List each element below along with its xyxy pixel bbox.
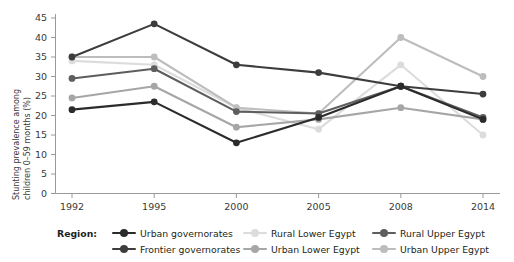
x-axis-tick-label: 2008 bbox=[381, 201, 421, 212]
legend-item[interactable]: Urban Lower Egypt bbox=[243, 242, 360, 256]
legend-label: Frontier governorates bbox=[140, 244, 240, 255]
x-axis-tick-label: 1995 bbox=[134, 201, 174, 212]
legend-marker-icon bbox=[243, 244, 267, 254]
y-axis-tick-label: 40 bbox=[25, 32, 47, 43]
legend-title: Region: bbox=[57, 228, 97, 239]
data-point bbox=[233, 61, 240, 68]
data-point bbox=[480, 132, 487, 139]
legend-item[interactable]: Rural Upper Egypt bbox=[372, 226, 485, 240]
legend-label: Urban Lower Egypt bbox=[271, 244, 360, 255]
data-point bbox=[397, 34, 404, 41]
legend-marker-icon bbox=[112, 228, 136, 238]
chart-legend: Region: Urban governoratesFrontier gover… bbox=[0, 224, 514, 262]
series-frontier-governorates bbox=[69, 20, 487, 97]
y-axis-tick-label: 0 bbox=[25, 188, 47, 199]
series-line bbox=[72, 38, 483, 114]
series-layer bbox=[69, 20, 487, 146]
y-axis-tick-label: 20 bbox=[25, 110, 47, 121]
data-point bbox=[69, 54, 76, 61]
x-axis-tick-label: 2000 bbox=[216, 201, 256, 212]
stunting-prevalence-line-chart: Stunting prevalence among children 0–59 … bbox=[0, 0, 514, 262]
series-rural-upper-egypt bbox=[69, 65, 487, 121]
data-point bbox=[69, 95, 76, 102]
data-point bbox=[233, 108, 240, 115]
legend-label: Rural Upper Egypt bbox=[400, 228, 485, 239]
y-axis-title-line-1: Stunting prevalence among bbox=[12, 89, 22, 200]
y-axis-tick-label: 10 bbox=[25, 149, 47, 160]
series-urban-lower-egypt bbox=[69, 83, 487, 131]
data-point bbox=[233, 139, 240, 146]
legend-item[interactable]: Urban governorates bbox=[112, 226, 233, 240]
data-point bbox=[397, 104, 404, 111]
data-point bbox=[151, 54, 158, 61]
x-axis-tick-label: 1992 bbox=[52, 201, 92, 212]
data-point bbox=[69, 106, 76, 113]
y-axis-tick-label: 30 bbox=[25, 71, 47, 82]
data-point bbox=[151, 98, 158, 105]
data-point bbox=[69, 75, 76, 82]
series-line bbox=[72, 86, 483, 143]
legend-item[interactable]: Urban Upper Egypt bbox=[372, 242, 489, 256]
data-point bbox=[480, 73, 487, 80]
legend-item[interactable]: Rural Lower Egypt bbox=[243, 226, 356, 240]
data-point bbox=[315, 126, 322, 133]
series-urban-governorates bbox=[69, 83, 487, 146]
x-axis-ticks bbox=[72, 194, 483, 199]
y-axis-tick-label: 35 bbox=[25, 51, 47, 62]
x-axis-tick-label: 2014 bbox=[463, 201, 503, 212]
legend-marker-icon bbox=[112, 244, 136, 254]
legend-label: Urban governorates bbox=[140, 228, 233, 239]
legend-label: Urban Upper Egypt bbox=[400, 244, 489, 255]
data-point bbox=[397, 61, 404, 68]
data-point bbox=[480, 116, 487, 123]
axis-lines bbox=[56, 14, 501, 194]
data-point bbox=[480, 91, 487, 98]
data-point bbox=[397, 83, 404, 90]
legend-marker-icon bbox=[372, 228, 396, 238]
plot-area bbox=[0, 0, 514, 262]
data-point bbox=[315, 114, 322, 121]
data-point bbox=[151, 65, 158, 72]
series-line bbox=[72, 86, 483, 127]
legend-marker-icon bbox=[372, 244, 396, 254]
data-point bbox=[315, 69, 322, 76]
y-axis-tick-label: 5 bbox=[25, 168, 47, 179]
x-axis-tick-label: 2005 bbox=[299, 201, 339, 212]
data-point bbox=[151, 83, 158, 90]
data-point bbox=[233, 124, 240, 131]
legend-label: Rural Lower Egypt bbox=[271, 228, 356, 239]
y-axis-tick-label: 45 bbox=[25, 12, 47, 23]
legend-item[interactable]: Frontier governorates bbox=[112, 242, 240, 256]
y-axis-ticks bbox=[51, 18, 56, 194]
data-point bbox=[151, 20, 158, 27]
y-axis-tick-label: 15 bbox=[25, 129, 47, 140]
y-axis-tick-label: 25 bbox=[25, 90, 47, 101]
legend-marker-icon bbox=[243, 228, 267, 238]
